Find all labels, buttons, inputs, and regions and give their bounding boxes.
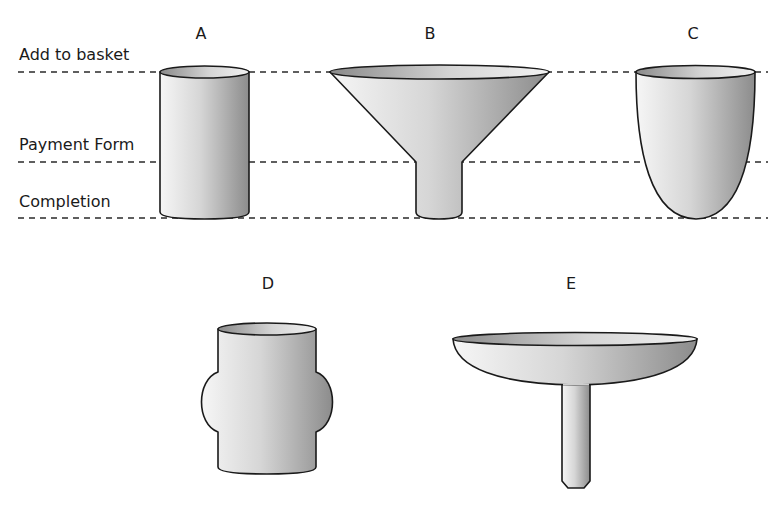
shape-label-b: B bbox=[425, 26, 436, 42]
shape-label-e: E bbox=[566, 276, 576, 292]
shape-label-d: D bbox=[262, 276, 274, 292]
stage-label-add-to-basket: Add to basket bbox=[19, 47, 129, 63]
stage-label-payment-form: Payment Form bbox=[19, 137, 134, 153]
shape-d-bulging-cylinder bbox=[202, 323, 333, 474]
shape-label-a: A bbox=[196, 26, 207, 42]
shape-a-cylinder bbox=[160, 66, 249, 219]
shape-c-rounded-cup bbox=[636, 66, 755, 220]
shape-e-bowl-with-stem bbox=[453, 333, 697, 489]
shape-label-c: C bbox=[687, 26, 698, 42]
shape-b-funnel bbox=[330, 65, 549, 219]
funnel-shapes-diagram: Add to basket Payment Form Completion A … bbox=[0, 0, 774, 506]
diagram-canvas bbox=[0, 0, 774, 506]
stage-label-completion: Completion bbox=[19, 194, 111, 210]
